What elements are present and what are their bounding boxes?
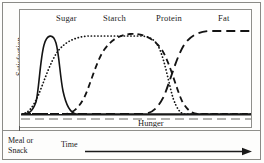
- origin-tick-mark: [19, 126, 20, 131]
- satisfaction-vs-time-figure: Satisfaction Sugar Starch Protein Fat Hu…: [0, 0, 264, 163]
- origin-label-line2: Snack: [8, 146, 54, 156]
- origin-label-line1: Meal or: [8, 136, 54, 146]
- curve-sugar: [22, 36, 251, 114]
- figure-footer: Meal or Snack Time: [3, 130, 260, 160]
- x-axis-label: Time: [61, 140, 78, 149]
- plot-area: Sugar Starch Protein Fat Hunger: [19, 9, 252, 128]
- hunger-label: Hunger: [138, 118, 164, 128]
- footer-divider: [3, 130, 260, 131]
- curves-svg: [20, 10, 252, 128]
- origin-label: Meal or Snack: [8, 136, 54, 155]
- time-arrow-icon: [85, 147, 253, 156]
